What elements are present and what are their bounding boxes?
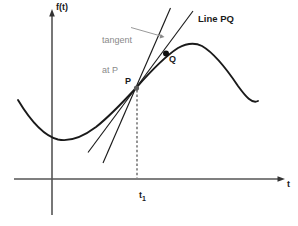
point-p-marker	[134, 85, 139, 90]
y-axis-label: f(t)	[56, 3, 68, 13]
secant-line-label: Line PQ	[198, 14, 234, 24]
function-curve	[18, 44, 258, 140]
x-axis	[14, 176, 285, 182]
figure-canvas	[0, 0, 298, 226]
t1-tick-label: t1	[129, 181, 146, 212]
x-axis-label: t	[287, 180, 290, 190]
tangent-annotation-line2: at P	[102, 66, 132, 76]
y-axis	[49, 9, 55, 215]
point-p-label: P	[125, 77, 131, 87]
tangent-annotation-line1: tangent	[102, 36, 132, 46]
tangent-secant-figure: f(t) t tangent at P Line PQ P Q t1	[0, 0, 298, 226]
point-q-label: Q	[169, 55, 176, 65]
t1-tick-subscript: 1	[142, 195, 146, 202]
